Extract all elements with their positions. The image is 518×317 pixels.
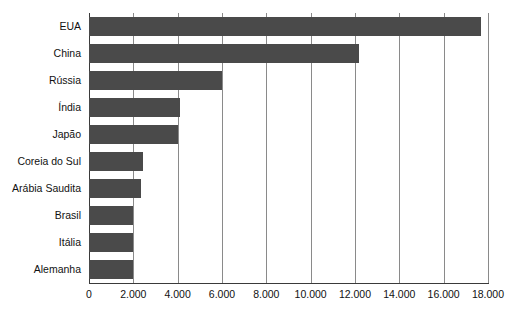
y-axis-tick-label: China xyxy=(0,44,85,63)
x-axis-tick-labels: 02.0004.0006.0008.00010.00012.00014.0001… xyxy=(0,287,518,307)
bar[interactable] xyxy=(89,71,222,90)
bar[interactable] xyxy=(89,44,359,63)
x-axis-tick-label: 10.000 xyxy=(295,287,327,301)
bar[interactable] xyxy=(89,98,180,117)
y-axis-tick-label: Brasil xyxy=(0,206,85,225)
bar[interactable] xyxy=(89,17,481,36)
x-axis-tick-label: 16.000 xyxy=(428,287,460,301)
y-axis-tick-label: Itália xyxy=(0,233,85,252)
y-axis-category-labels: EUAChinaRússiaÍndiaJapãoCoreia do SulArá… xyxy=(0,13,85,283)
y-axis-tick-label: Arábia Saudita xyxy=(0,179,85,198)
x-axis-tick-label: 12.000 xyxy=(339,287,371,301)
plot-area xyxy=(89,13,488,283)
y-axis-tick-label: Índia xyxy=(0,98,85,117)
bar[interactable] xyxy=(89,260,133,279)
x-axis-tick-label: 0 xyxy=(86,287,92,301)
bars-series xyxy=(89,13,488,283)
gridline xyxy=(488,13,489,283)
y-axis-tick-label: EUA xyxy=(0,17,85,36)
x-axis-line xyxy=(89,283,489,284)
x-axis-tick-label: 2.000 xyxy=(120,287,146,301)
x-axis-tick-label: 14.000 xyxy=(383,287,415,301)
x-axis-tick-label: 6.000 xyxy=(209,287,235,301)
bar[interactable] xyxy=(89,206,133,225)
bar[interactable] xyxy=(89,233,133,252)
x-axis-tick-label: 4.000 xyxy=(165,287,191,301)
bar-chart: EUAChinaRússiaÍndiaJapãoCoreia do SulArá… xyxy=(0,0,518,317)
x-axis-tick-label: 18.000 xyxy=(472,287,504,301)
bar[interactable] xyxy=(89,125,178,144)
y-axis-tick-label: Japão xyxy=(0,125,85,144)
y-axis-tick-label: Rússia xyxy=(0,71,85,90)
x-axis-tick-label: 8.000 xyxy=(253,287,279,301)
bar[interactable] xyxy=(89,179,141,198)
y-axis-tick-label: Alemanha xyxy=(0,260,85,279)
y-axis-tick-label: Coreia do Sul xyxy=(0,152,85,171)
bar[interactable] xyxy=(89,152,143,171)
